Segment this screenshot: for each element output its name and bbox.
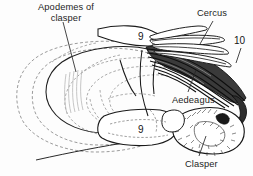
body-wall-lines: [120, 50, 158, 116]
leader-ten: [236, 48, 241, 63]
label-apodemes-line2: clasper: [24, 13, 108, 24]
label-aedeagus: Aedeagus: [172, 95, 215, 106]
leader-apodemes: [63, 22, 76, 72]
segment-number-ten: 10: [234, 35, 245, 46]
label-clasper: Clasper: [185, 159, 218, 170]
label-cercus: Cercus: [197, 8, 227, 19]
label-apodemes-line1: Apodemes of: [24, 2, 108, 13]
label-apodemes-of-clasper: Apodemes of clasper: [24, 2, 108, 23]
segment-number-nine-lower: 9: [138, 124, 144, 135]
apodeme-striations: [65, 70, 83, 114]
segment-number-nine-upper: 9: [138, 31, 144, 42]
genitalia-figure: Apodemes of clasper Cercus Aedeagus Clas…: [0, 0, 253, 176]
figure-linework: [0, 0, 253, 176]
accessory-lobe: [162, 110, 185, 132]
